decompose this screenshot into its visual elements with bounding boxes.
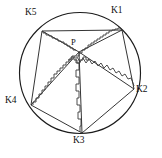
point-label-p: P	[71, 38, 76, 47]
vertex-label-k4: K4	[5, 96, 17, 106]
spoke-p-k2	[79, 52, 134, 89]
geometric-figure-container: P K1 K2 K3 K4 K5	[0, 0, 162, 158]
vertex-label-k3: K3	[73, 136, 85, 146]
vertex-label-k1: K1	[111, 6, 123, 16]
jagged-path-p-k2	[77, 57, 134, 86]
spoke-p-k4	[31, 52, 79, 105]
vertex-label-k5: K5	[25, 8, 37, 18]
vertex-label-k2: K2	[136, 85, 148, 95]
